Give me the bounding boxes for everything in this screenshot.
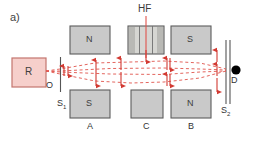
detector-label: D [231,76,238,85]
rf-region-label: HF [138,4,151,14]
magnet-A-bottom-pole: S [86,99,92,108]
slit-two-sub: 2 [227,111,230,117]
figure-panel: a) R O S1 S2 D N S S N HF A C B [0,0,255,141]
magnet-A-top-pole: N [86,35,93,44]
group-label-A: A [87,122,93,131]
slit-two-lines [226,40,230,104]
apparatus-diagram [0,0,255,141]
panel-label: a) [10,12,20,23]
detector-dot [231,65,240,74]
source-label: R [25,67,32,77]
beam-trajectories [46,61,226,83]
slit-two-label: S2 [221,106,230,117]
group-label-B: B [188,122,194,131]
source-exit-label: O [46,81,53,90]
magnet-B-bottom-pole: N [187,99,194,108]
group-label-C: C [143,122,150,131]
slit-one-label: S1 [57,99,66,110]
spin-arrows [64,50,217,92]
slit-one-sub: 1 [63,104,66,110]
magnet-C-bottom [131,90,163,118]
magnet-B-top-pole: S [187,35,193,44]
